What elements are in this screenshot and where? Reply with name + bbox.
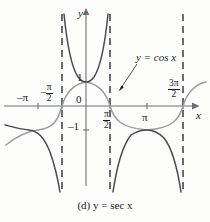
fraction-denominator: 2 — [168, 90, 180, 100]
secant-branch-left — [5, 125, 60, 192]
x-tick-label-pi: π — [142, 112, 148, 123]
x-tick-label-neg-pi: –π — [17, 92, 28, 103]
fraction-denominator: 2 — [103, 121, 110, 131]
secant-function-figure: y x 1 0 –1 –π –π2 π2 π 3π2 y = cos x (d)… — [0, 0, 210, 222]
cos-arrow-head — [119, 85, 124, 91]
y-tick-label-one: 1 — [77, 72, 83, 83]
x-axis-label: x — [196, 110, 201, 121]
cos-arrow-line — [121, 64, 137, 88]
origin-label: 0 — [76, 94, 82, 105]
y-axis-label: y — [78, 8, 83, 19]
x-tick-label-three-half-pi: 3π2 — [168, 79, 180, 99]
plot-canvas — [0, 0, 210, 200]
fraction-three-half-pi: 3π2 — [168, 79, 180, 99]
y-tick-label-neg-one: –1 — [68, 121, 79, 132]
x-tick-label-half-pi: π2 — [103, 110, 110, 130]
secant-curve — [5, 14, 181, 192]
fraction-denominator: 2 — [46, 94, 53, 104]
cosine-curve-label: y = cos x — [136, 52, 176, 63]
x-tick-label-neg-half-pi: –π2 — [41, 83, 53, 103]
secant-branch-right — [113, 130, 181, 192]
y-axis-arrowhead — [83, 8, 90, 15]
fraction-half-pi: π2 — [103, 110, 110, 130]
cos-annotation-arrow — [119, 64, 138, 92]
fraction-neg-half-pi: π2 — [46, 83, 53, 103]
figure-caption: (d) y = sec x — [0, 199, 210, 211]
